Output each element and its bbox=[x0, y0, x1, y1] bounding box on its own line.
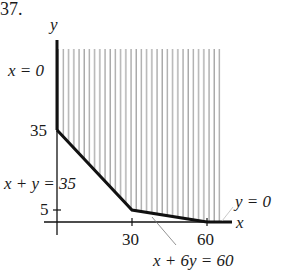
tick-x-60: 60 bbox=[197, 231, 214, 248]
label-x-eq-0: x = 0 bbox=[8, 62, 44, 79]
leader-x6y60 bbox=[152, 217, 176, 245]
y-axis-label: y bbox=[50, 16, 58, 33]
tick-y-35: 35 bbox=[30, 122, 47, 139]
x-axis-label: x bbox=[236, 214, 244, 231]
tick-x-30: 30 bbox=[122, 231, 139, 248]
label-x-plus-6y-60: x + 6y = 60 bbox=[153, 252, 234, 269]
label-x-plus-y-35: x + y = 35 bbox=[4, 175, 76, 192]
hatched-feasible-region bbox=[57, 49, 223, 223]
leader-y0 bbox=[222, 207, 233, 221]
label-y-eq-0: y = 0 bbox=[235, 193, 271, 210]
tick-y-5: 5 bbox=[40, 201, 49, 218]
